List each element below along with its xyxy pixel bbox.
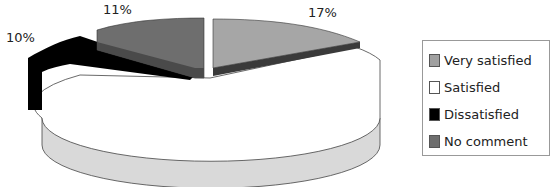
swatch-icon [429, 135, 440, 148]
label-very-satisfied: 17% [308, 5, 337, 20]
legend-item-dissatisfied: Dissatisfied [429, 101, 549, 128]
chart-legend: Very satisfied Satisfied Dissatisfied No… [422, 40, 550, 156]
swatch-icon [429, 54, 440, 67]
legend-label: Dissatisfied [444, 107, 519, 122]
legend-item-satisfied: Satisfied [429, 74, 549, 101]
legend-label: Satisfied [444, 80, 500, 95]
label-dissatisfied: 10% [6, 30, 35, 45]
pie-chart [0, 0, 420, 187]
legend-label: Very satisfied [444, 53, 532, 68]
label-no-comment: 11% [103, 2, 132, 17]
legend-item-very-satisfied: Very satisfied [429, 47, 549, 74]
legend-item-no-comment: No comment [429, 128, 549, 155]
swatch-icon [429, 81, 440, 94]
legend-label: No comment [444, 134, 528, 149]
swatch-icon [429, 108, 440, 121]
